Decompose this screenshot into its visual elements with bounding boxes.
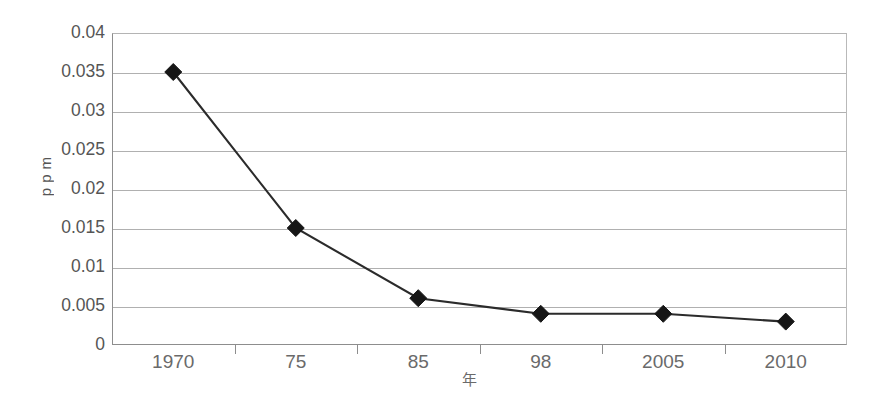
x-axis-tick [480,345,481,354]
gridline [113,73,846,74]
y-axis-tick-label: 0.03 [71,102,105,120]
gridline [113,190,846,191]
y-axis-tick-labels: 00.0050.010.0150.020.0250.030.0350.04 [0,0,105,395]
x-axis-title: 年 [462,372,477,387]
x-axis-tick [602,345,603,354]
gridline [113,307,846,308]
x-axis-tick-label: 75 [285,352,306,371]
y-axis-tick-label: 0 [95,336,105,354]
x-axis-tick-label: 98 [530,352,551,371]
y-axis-tick-label: 0.005 [61,297,105,315]
y-axis-tick-label: 0.02 [71,180,105,198]
y-axis-tick-label: 0.025 [61,141,105,159]
x-axis-tick-label: 2010 [765,352,807,371]
x-axis-tick [725,345,726,354]
x-axis-tick [235,345,236,354]
line-chart: ppm 00.0050.010.0150.020.0250.030.0350.0… [0,0,892,395]
y-axis-tick-label: 0.035 [61,63,105,81]
x-axis-tick [357,345,358,354]
y-axis-tick-label: 0.01 [71,258,105,276]
gridline [113,151,846,152]
y-axis-tick-label: 0.015 [61,219,105,237]
plot-area [112,33,847,345]
x-axis-tick-label: 2005 [642,352,684,371]
gridline [113,268,846,269]
x-axis-tick-label: 85 [408,352,429,371]
gridline [113,112,846,113]
y-axis-tick-label: 0.04 [71,24,105,42]
gridline [113,229,846,230]
x-axis-tick-label: 1970 [152,352,194,371]
